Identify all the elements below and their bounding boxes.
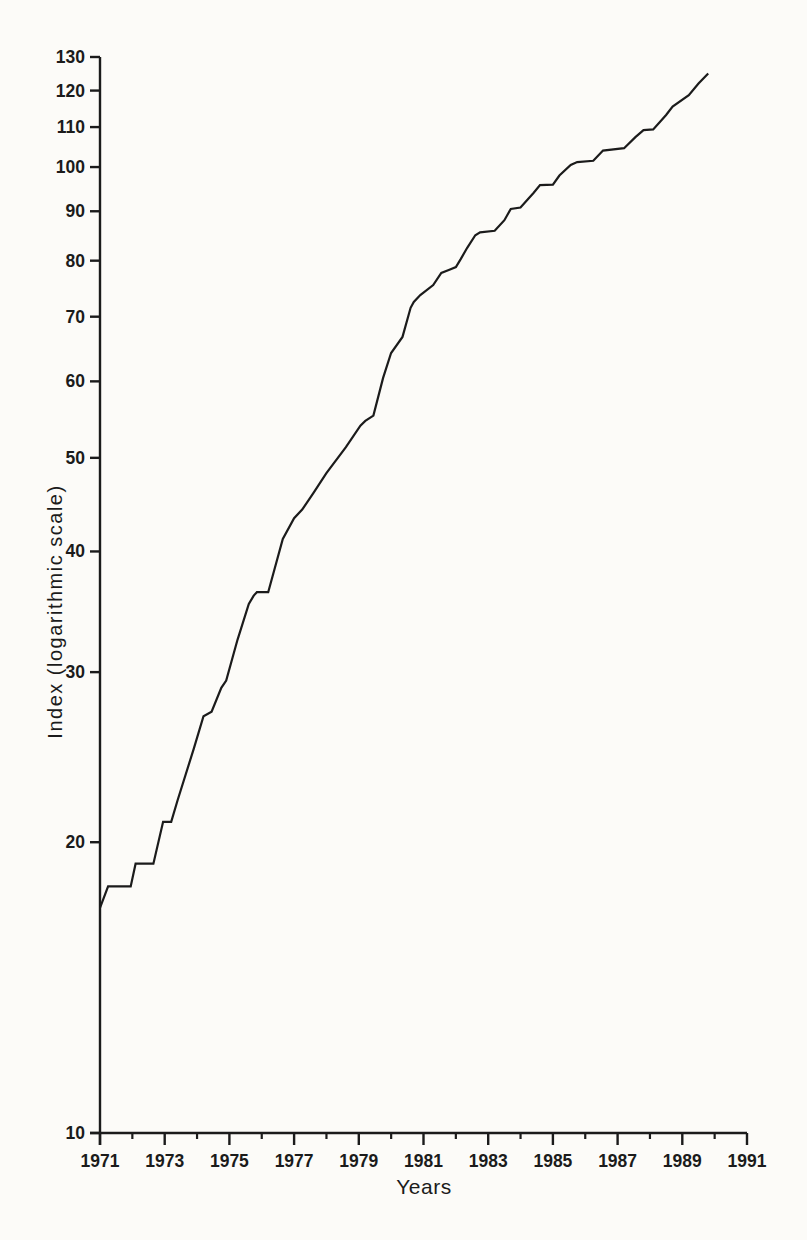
x-tick-label: 1975 (210, 1151, 249, 1171)
y-tick-label: 80 (66, 251, 86, 271)
y-tick-label: 70 (66, 307, 86, 327)
y-tick-label: 20 (66, 832, 86, 852)
x-tick-label: 1979 (339, 1151, 378, 1171)
y-tick-label: 40 (66, 541, 86, 561)
y-tick-label: 10 (66, 1123, 86, 1143)
y-tick-label: 110 (57, 117, 85, 137)
x-tick-label: 1973 (145, 1151, 184, 1171)
y-tick-label: 50 (66, 448, 86, 468)
x-tick-label: 1987 (598, 1151, 637, 1171)
x-tick-label: 1981 (404, 1151, 443, 1171)
x-axis-title: Years (100, 1175, 748, 1199)
y-tick-label: 100 (56, 157, 85, 177)
y-axis-title: Index (logarithmic scale) (44, 397, 67, 827)
y-tick-label: 30 (66, 662, 86, 682)
y-tick-label: 60 (66, 371, 86, 391)
y-tick-label: 90 (66, 201, 86, 221)
x-tick-label: 1991 (728, 1151, 767, 1171)
x-tick-label: 1985 (533, 1151, 572, 1171)
y-tick-label: 130 (56, 47, 85, 67)
x-tick-label: 1971 (81, 1151, 120, 1171)
x-tick-label: 1983 (469, 1151, 508, 1171)
index-series-line (100, 74, 708, 908)
x-tick-label: 1977 (275, 1151, 314, 1171)
chart-figure: 1020304050607080901001101201301971197319… (0, 0, 807, 1240)
x-tick-label: 1989 (663, 1151, 702, 1171)
y-tick-label: 120 (56, 81, 85, 101)
index-line-chart: 1020304050607080901001101201301971197319… (0, 0, 807, 1240)
